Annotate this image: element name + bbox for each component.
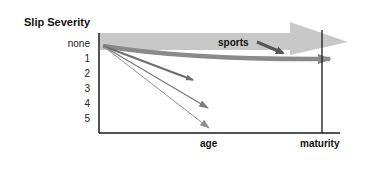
tick-none: none: [68, 38, 91, 49]
tick-5: 5: [84, 113, 90, 124]
age-label: age: [200, 138, 218, 149]
sports-label: sports: [218, 37, 249, 48]
diagram-title: Slip Severity: [24, 16, 91, 28]
tick-1: 1: [84, 53, 90, 64]
thin-arrow-to-5: [103, 46, 209, 128]
slip-severity-diagram: Slip Severity none 1 2 3 4 5 sports age …: [0, 0, 369, 169]
tick-4: 4: [84, 98, 90, 109]
tick-3: 3: [84, 83, 90, 94]
tick-2: 2: [84, 68, 90, 79]
y-axis-ticks: none 1 2 3 4 5: [68, 38, 91, 124]
maturity-label: maturity: [300, 138, 340, 149]
